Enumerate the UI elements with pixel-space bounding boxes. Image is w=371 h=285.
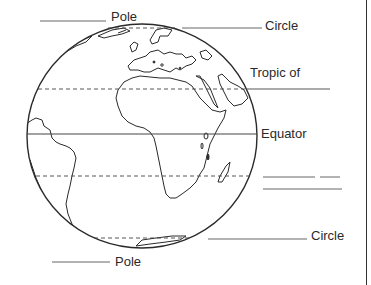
british-isles-outline xyxy=(130,42,138,52)
greenland-outline xyxy=(98,28,130,38)
europe-outline xyxy=(128,50,196,72)
south-pole-label: Pole xyxy=(115,255,141,268)
arctic-circle-label: Circle xyxy=(265,19,298,32)
antarctica-outline xyxy=(136,236,186,246)
scandinavia-outline xyxy=(150,28,172,44)
madagascar-outline xyxy=(218,162,230,182)
equator-label: Equator xyxy=(261,127,307,140)
antarctic-circle-label: Circle xyxy=(311,229,344,242)
north-pole-label: Pole xyxy=(111,10,137,23)
right-border xyxy=(366,0,367,285)
tropic-of-cancer-label: Tropic of xyxy=(250,66,300,79)
arabia-outline xyxy=(196,76,218,108)
